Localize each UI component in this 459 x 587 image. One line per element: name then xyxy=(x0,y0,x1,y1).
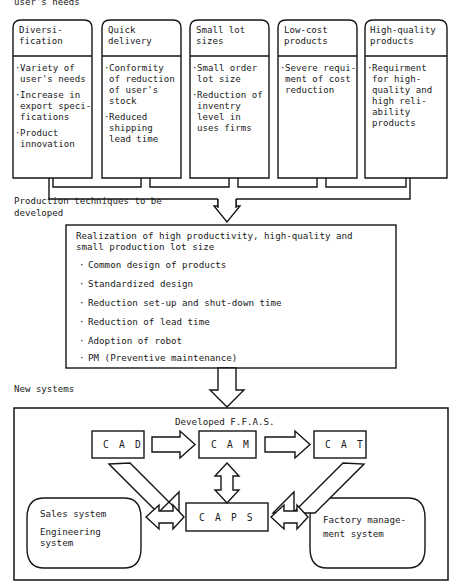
card-title-line1: Quick xyxy=(108,25,136,35)
technique-item: Reduction of lead time xyxy=(88,316,210,327)
pod-sales-line2: Engineering xyxy=(40,526,101,537)
caption-production-techniques-line2: developed xyxy=(14,208,63,218)
card-title-line1: Small lot xyxy=(196,25,245,35)
node-cat[interactable]: C A T xyxy=(314,431,366,458)
bullet-text: Variety of xyxy=(20,63,75,73)
card-title-line1: Diversi- xyxy=(19,25,63,35)
bullet-text: ability xyxy=(372,107,411,117)
systems-box-title: Developed F.F.A.S. xyxy=(175,416,275,427)
figure-root: user's needs Diversi- fication · Variety… xyxy=(0,0,459,587)
bullet-text: for high- xyxy=(372,74,421,84)
bullet-text: products xyxy=(372,118,416,128)
bullet-text: reduction xyxy=(285,85,334,95)
needs-card-small-lot-sizes[interactable]: Small lot sizes · Small order lot size ·… xyxy=(190,20,269,178)
node-caps[interactable]: C A P S xyxy=(186,503,268,531)
bullet-text: high reli- xyxy=(372,96,427,106)
connector-techniques-to-systems xyxy=(210,368,244,407)
techniques-heading-line2: small production lot size xyxy=(76,241,214,252)
bullet-text: Product xyxy=(20,128,58,138)
bullet-text: Reduced xyxy=(109,112,147,122)
card-title-line2: fication xyxy=(19,36,63,46)
node-cad[interactable]: C A D xyxy=(92,431,144,458)
bullet-text: Conformity xyxy=(109,63,164,73)
arrow-down-hollow-icon xyxy=(214,206,240,222)
bullet-text: Requirment xyxy=(372,63,427,73)
card-title-line2: products xyxy=(284,36,328,46)
pod-factory-line1: Factory manage- xyxy=(323,514,406,525)
bullet-marker: · xyxy=(79,278,85,289)
pod-sales-line1: Sales system xyxy=(40,508,107,519)
needs-card-low-cost-products[interactable]: Low-cost products · Severe requi- ment o… xyxy=(278,20,357,178)
card-title-line2: delivery xyxy=(108,36,152,46)
bullet-text: uses firms xyxy=(197,123,252,133)
node-cad-label: C A D xyxy=(103,439,143,450)
bullet-marker: · xyxy=(79,259,85,270)
bullet-marker: · xyxy=(79,316,85,327)
bullet-text: shipping xyxy=(109,123,153,133)
bullet-marker: · xyxy=(79,352,85,363)
bullet-text: of user's xyxy=(109,85,158,95)
card-title-line1: High-quality xyxy=(370,25,436,35)
bullet-text: ment of cost xyxy=(285,74,351,84)
arrow-down-hollow-icon xyxy=(210,368,244,407)
pod-sales-engineering[interactable]: Sales system Engineering system xyxy=(27,498,141,568)
needs-card-high-quality-products[interactable]: High-quality products · Requirment for h… xyxy=(365,20,447,178)
technique-item: Reduction set-up and shut-down time xyxy=(88,297,282,308)
bullet-text: export speci- xyxy=(20,101,91,111)
card-title-line2: products xyxy=(370,36,414,46)
bullet-text: Reduction of xyxy=(197,90,263,100)
caption-production-techniques-line1: Production techniques to be xyxy=(14,196,162,206)
bullet-text: user's needs xyxy=(20,74,86,84)
bullet-text: innovation xyxy=(20,139,75,149)
node-cam-label: C A M xyxy=(211,439,251,450)
pod-factory-line2: ment system xyxy=(323,528,384,539)
technique-item: Standardized design xyxy=(88,278,193,289)
bullet-text: fications xyxy=(20,112,69,122)
needs-card-diversification[interactable]: Diversi- fication · Variety of user's ne… xyxy=(13,20,92,178)
bullet-text: lot size xyxy=(197,74,241,84)
systems-box[interactable]: Developed F.F.A.S. C A D C A M C A T C A… xyxy=(14,408,448,580)
bullet-text: stock xyxy=(109,96,137,106)
techniques-box[interactable]: Realization of high productivity, high-q… xyxy=(66,225,396,368)
technique-item: PM (Preventive maintenance) xyxy=(88,352,237,363)
needs-card-quick-delivery[interactable]: Quick delivery · Conformity of reduction… xyxy=(102,20,181,178)
technique-item: Common design of products xyxy=(88,259,226,270)
card-title-line1: Low-cost xyxy=(284,25,328,35)
node-cam[interactable]: C A M xyxy=(199,431,256,458)
process-flow-diagram: user's needs Diversi- fication · Variety… xyxy=(0,0,459,587)
bullet-text: of reduction xyxy=(109,74,175,84)
bullet-text: level in xyxy=(197,112,241,122)
pod-factory-management[interactable]: Factory manage- ment system xyxy=(310,498,425,568)
bullet-marker: · xyxy=(79,297,85,308)
node-caps-label: C A P S xyxy=(199,512,255,523)
technique-item: Adoption of robot xyxy=(88,335,182,346)
bullet-marker: · xyxy=(79,335,85,346)
caption-new-systems: New systems xyxy=(14,384,74,394)
bullet-text: Increase in xyxy=(20,90,80,100)
techniques-heading-line1: Realization of high productivity, high-q… xyxy=(76,230,353,241)
bullet-text: lead time xyxy=(109,134,158,144)
card-title-line2: sizes xyxy=(196,36,223,46)
node-cat-label: C A T xyxy=(325,439,365,450)
bullet-text: Small order xyxy=(197,63,258,73)
pod-sales-line3: system xyxy=(40,537,74,548)
bullet-text: quality and xyxy=(372,85,432,95)
top-note: user's needs xyxy=(14,0,80,7)
bullet-text: Severe requi- xyxy=(285,63,356,73)
bullet-text: inventry xyxy=(197,101,241,111)
